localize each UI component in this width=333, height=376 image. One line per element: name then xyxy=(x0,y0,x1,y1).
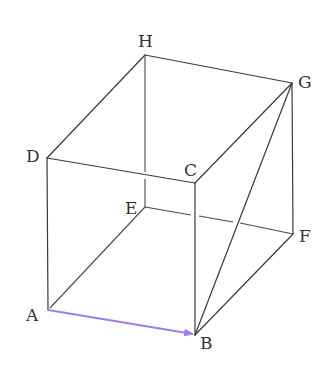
vertex-label-F: F xyxy=(299,226,311,246)
edge-DH xyxy=(47,55,145,158)
vertex-label-D: D xyxy=(26,146,40,166)
vertex-label-A: A xyxy=(25,305,39,325)
edge-DA xyxy=(47,158,48,310)
vector-AB xyxy=(48,310,193,334)
vertex-label-H: H xyxy=(138,31,153,51)
vertex-label-C: C xyxy=(184,160,197,180)
edge-EF-right xyxy=(240,223,293,234)
edge-HG xyxy=(145,55,292,83)
edge-EF-mid xyxy=(199,216,233,222)
edge-BF xyxy=(195,234,293,335)
edge-CG xyxy=(195,83,292,183)
prism-diagram: A B C D E F G H xyxy=(0,0,333,376)
edge-EF-left xyxy=(145,207,191,215)
diagonal-BG xyxy=(195,83,292,335)
edge-GF xyxy=(292,83,293,234)
vertex-label-E: E xyxy=(125,198,137,218)
vertex-label-B: B xyxy=(200,333,213,353)
edge-EA xyxy=(50,207,145,308)
edge-DC xyxy=(47,158,195,183)
prism-svg: A B C D E F G H xyxy=(0,0,333,376)
vertex-label-G: G xyxy=(298,72,312,92)
